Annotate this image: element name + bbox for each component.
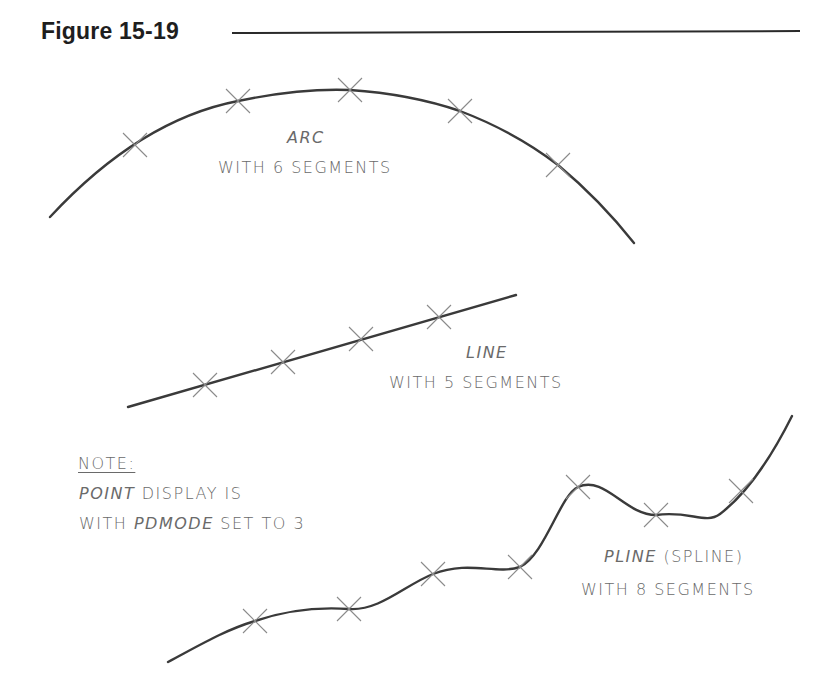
note-line-1-rest: DISPLAY IS bbox=[142, 484, 243, 503]
line-caption: WITH 5 SEGMENTS bbox=[389, 373, 563, 392]
note-point-term: POINT bbox=[79, 484, 135, 503]
point-marker-x-icon bbox=[566, 475, 590, 499]
point-marker-x-icon bbox=[421, 562, 445, 586]
pline-type-label: PLINE bbox=[604, 547, 657, 566]
point-marker-x-icon bbox=[508, 555, 532, 579]
pline-object bbox=[168, 416, 792, 662]
note-pdmode-term: PDMODE bbox=[134, 514, 214, 533]
arc-type-label: ARC bbox=[287, 128, 325, 147]
point-marker-x-icon bbox=[243, 609, 267, 633]
note-line-2-rest: SET TO 3 bbox=[220, 514, 305, 533]
point-marker-x-icon bbox=[546, 153, 570, 177]
pline-caption: WITH 8 SEGMENTS bbox=[581, 580, 755, 599]
note-heading: NOTE: bbox=[78, 454, 135, 473]
point-marker-x-icon bbox=[729, 479, 753, 503]
point-marker-x-icon bbox=[427, 305, 451, 329]
note-line-2: WITH PDMODE SET TO 3 bbox=[79, 514, 305, 533]
point-marker-x-icon bbox=[349, 327, 373, 351]
point-marker-x-icon bbox=[271, 350, 295, 374]
note-line-2-prefix: WITH bbox=[79, 514, 127, 533]
pline-type-label-row: PLINE (SPLINE) bbox=[604, 547, 743, 566]
line-type-label: LINE bbox=[466, 343, 508, 362]
point-marker-x-icon bbox=[448, 99, 472, 123]
point-marker-x-icon bbox=[193, 373, 217, 397]
note-line-1: POINT DISPLAY IS bbox=[79, 484, 242, 503]
point-marker-x-icon bbox=[226, 89, 250, 113]
pline-type-suffix: (SPLINE) bbox=[663, 547, 743, 566]
arc-caption: WITH 6 SEGMENTS bbox=[218, 158, 392, 177]
pline-spline-curve bbox=[168, 416, 792, 662]
point-marker-x-icon bbox=[123, 133, 147, 157]
title-rule bbox=[232, 31, 800, 33]
